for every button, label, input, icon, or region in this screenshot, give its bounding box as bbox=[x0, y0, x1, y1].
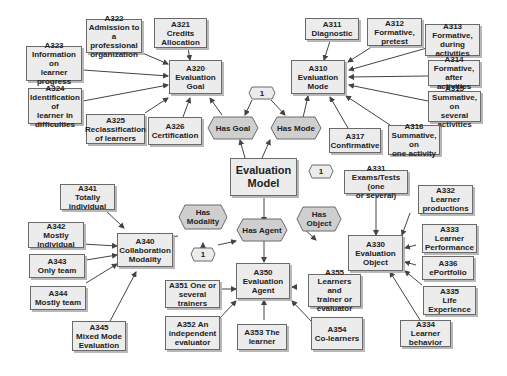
node-label: A321 Credits Allocation bbox=[161, 20, 200, 47]
evaluation-model-diagram: Evaluation Model Has Goal Has Mode 1 Has… bbox=[0, 0, 507, 376]
node-label: A310 Evaluation Mode bbox=[298, 64, 338, 91]
goal-item-a322[interactable]: A322 Admission to a professional organiz… bbox=[86, 19, 142, 53]
has-mode-label: Has Mode bbox=[277, 124, 315, 133]
object-item-a334[interactable]: A334 Learner behavior bbox=[400, 320, 451, 347]
node-label: A331 Exams/Tests (one or several) bbox=[346, 164, 406, 200]
node-label: A334 Learner behavior bbox=[409, 320, 442, 347]
object-item-a331[interactable]: A331 Exams/Tests (one or several) bbox=[344, 170, 408, 194]
goal-item-a321[interactable]: A321 Credits Allocation bbox=[154, 18, 207, 48]
node-label: A312 Formative, pretest bbox=[374, 19, 414, 46]
cardinality-label: 1 bbox=[260, 89, 264, 98]
modality-item-a345[interactable]: A345 Mixed Mode Evaluation bbox=[72, 321, 126, 351]
object-main-node[interactable]: A330 Evaluation Object bbox=[348, 235, 403, 271]
mode-item-a315[interactable]: A315 Summative, on several activities bbox=[428, 91, 481, 122]
has-agent-label: Has Agent bbox=[242, 226, 281, 235]
node-label: A330 Evaluation Object bbox=[355, 240, 395, 267]
cardinality-top: 1 bbox=[248, 86, 276, 100]
mode-item-a316[interactable]: A316 Summative, on one activity bbox=[388, 125, 440, 155]
node-label: A343 Only team bbox=[38, 257, 77, 275]
node-label: A341 Totally individual bbox=[69, 184, 106, 211]
object-item-a336[interactable]: A336 ePortfolio bbox=[422, 256, 474, 280]
node-label: A313 Formative, during activities bbox=[427, 22, 478, 58]
modality-item-a344[interactable]: A344 Mostly team bbox=[30, 286, 86, 310]
node-label: A353 The learner bbox=[244, 328, 280, 346]
modality-main-node[interactable]: A340 Collaboration Modality bbox=[117, 233, 173, 267]
agent-item-a354[interactable]: A354 Co-learners bbox=[311, 317, 363, 350]
node-label: A351 One or several trainers bbox=[169, 281, 216, 308]
node-label: A345 Mixed Mode Evaluation bbox=[76, 323, 122, 350]
node-label: A324 Identification of learner in diffic… bbox=[30, 84, 80, 129]
node-label: A342 Mostly individual bbox=[37, 222, 74, 249]
agent-main-node[interactable]: A350 Evaluation Agent bbox=[236, 263, 290, 299]
object-item-a332[interactable]: A332 Learner productions bbox=[418, 185, 473, 214]
cardinality-modality: 1 bbox=[190, 247, 216, 262]
cardinality-label: 1 bbox=[201, 250, 205, 259]
object-item-a335[interactable]: A335 Life Experience bbox=[423, 286, 476, 315]
has-object-label: Has Object bbox=[307, 210, 332, 228]
node-label: A316 Summative, on one activity bbox=[390, 122, 438, 158]
modality-item-a343[interactable]: A343 Only team bbox=[29, 254, 85, 278]
mode-item-a311[interactable]: A311 Diagnostic bbox=[305, 18, 359, 40]
mode-item-a313[interactable]: A313 Formative, during activities bbox=[425, 24, 480, 56]
node-label: A325 Reclassification of learners bbox=[85, 116, 146, 143]
node-label: A350 Evaluation Agent bbox=[243, 268, 283, 295]
evaluation-model-label: Evaluation Model bbox=[236, 164, 292, 190]
agent-item-a352[interactable]: A352 An independent evaluator bbox=[165, 316, 220, 350]
cardinality-object: 1 bbox=[308, 164, 334, 179]
node-label: A320 Evaluation Goal bbox=[175, 64, 215, 91]
agent-item-a355[interactable]: A355 Learners and trainer or evaluator bbox=[308, 274, 361, 307]
goal-item-a323[interactable]: A323 Information on learner progress bbox=[26, 46, 82, 81]
cardinality-label: 1 bbox=[319, 167, 323, 176]
node-label: A340 Collaboration Modality bbox=[119, 237, 171, 264]
node-label: A336 ePortfolio bbox=[429, 259, 466, 277]
node-label: A323 Information on learner progress bbox=[28, 41, 80, 86]
modality-item-a341[interactable]: A341 Totally individual bbox=[60, 184, 115, 210]
has-mode-relation[interactable]: Has Mode bbox=[270, 116, 322, 140]
node-label: A354 Co-learners bbox=[315, 325, 359, 343]
has-modality-relation[interactable]: Has Modality bbox=[178, 204, 228, 230]
node-label: A355 Learners and trainer or evaluator bbox=[310, 268, 359, 313]
mode-main-node[interactable]: A310 Evaluation Mode bbox=[291, 60, 345, 94]
has-object-relation[interactable]: Has Object bbox=[296, 206, 342, 232]
modality-item-a342[interactable]: A342 Mostly individual bbox=[28, 222, 84, 248]
node-label: A333 Learner Performance bbox=[425, 225, 474, 252]
goal-item-a325[interactable]: A325 Reclassification of learners bbox=[86, 114, 145, 144]
has-agent-relation[interactable]: Has Agent bbox=[236, 218, 288, 242]
node-label: A311 Diagnostic bbox=[312, 20, 353, 38]
node-label: A352 An independent evaluator bbox=[169, 320, 217, 347]
has-goal-relation[interactable]: Has Goal bbox=[207, 116, 259, 140]
node-label: A317 Confirmative bbox=[331, 132, 380, 150]
node-label: A326 Certification bbox=[152, 122, 199, 140]
node-label: A335 Life Experience bbox=[428, 287, 471, 314]
node-label: A332 Learner productions bbox=[422, 186, 468, 213]
node-label: A344 Mostly team bbox=[35, 289, 81, 307]
goal-main-node[interactable]: A320 Evaluation Goal bbox=[169, 60, 222, 94]
object-item-a333[interactable]: A333 Learner Performance bbox=[422, 224, 477, 253]
agent-item-a353[interactable]: A353 The learner bbox=[237, 324, 287, 350]
agent-item-a351[interactable]: A351 One or several trainers bbox=[165, 280, 220, 308]
mode-item-a312[interactable]: A312 Formative, pretest bbox=[367, 18, 422, 46]
has-goal-label: Has Goal bbox=[216, 124, 251, 133]
evaluation-model-node[interactable]: Evaluation Model bbox=[230, 158, 297, 196]
goal-item-a324[interactable]: A324 Identification of learner in diffic… bbox=[28, 88, 82, 124]
has-modality-label: Has Modality bbox=[187, 208, 219, 226]
goal-item-a326[interactable]: A326 Certification bbox=[148, 117, 202, 145]
mode-item-a317[interactable]: A317 Confirmative bbox=[329, 128, 381, 153]
mode-item-a314[interactable]: A314 Formative, after activities bbox=[428, 60, 480, 86]
node-label: A322 Admission to a professional organiz… bbox=[88, 14, 140, 59]
